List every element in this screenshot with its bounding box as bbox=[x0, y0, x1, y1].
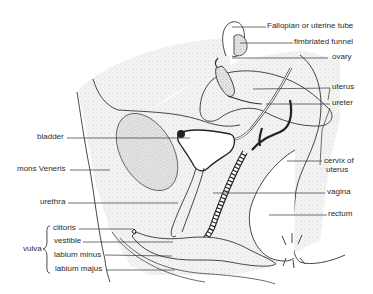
label-ureter: ureter bbox=[332, 98, 353, 107]
label-vulva: vulva bbox=[23, 244, 42, 253]
label-labium-majus: labium majus bbox=[55, 264, 102, 273]
label-cervix-line1: cervix of bbox=[324, 156, 354, 165]
label-labium-minus: labium minus bbox=[54, 250, 101, 259]
label-mons-veneris: mons Veneris bbox=[17, 164, 65, 173]
label-fallopian-tube: Fallopian or uterine tube bbox=[267, 21, 353, 30]
label-clitoris: clitoris bbox=[53, 223, 76, 232]
vulva-brace bbox=[43, 226, 50, 273]
label-vestible: vestible bbox=[54, 236, 81, 245]
label-uterus: uterus bbox=[332, 82, 354, 91]
fimbriated-funnel-shape bbox=[234, 35, 247, 56]
label-fimbriated-funnel: fimbriated funnel bbox=[294, 37, 353, 46]
label-rectum: rectum bbox=[328, 209, 352, 218]
label-bladder: bladder bbox=[37, 132, 64, 141]
label-cervix-line2: uterus bbox=[326, 165, 348, 174]
label-vagina: vagina bbox=[327, 187, 351, 196]
label-ovary: ovary bbox=[332, 52, 352, 61]
label-urethra: urethra bbox=[40, 197, 65, 206]
anatomy-diagram: Fallopian or uterine tube fimbriated fun… bbox=[0, 0, 373, 294]
bladder-neck bbox=[177, 130, 185, 138]
